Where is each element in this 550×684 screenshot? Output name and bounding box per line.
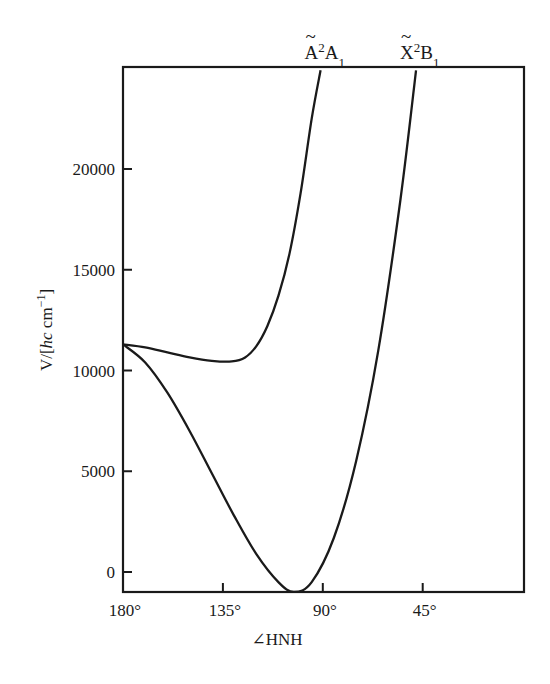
curves	[123, 70, 416, 592]
y-tick-label: 10000	[73, 362, 116, 381]
y-tick-label: 20000	[73, 160, 116, 179]
tilde-mark: ~	[401, 26, 411, 47]
curve-a2a1	[123, 70, 321, 361]
y-axis-title: V/[hc cm−1]	[34, 289, 56, 371]
chart: 05000100001500020000 180°135°90°45° A2A1…	[0, 0, 550, 684]
y-tick-label: 15000	[73, 261, 116, 280]
y-tick-label: 5000	[81, 462, 115, 481]
y-tick-label: 0	[107, 563, 116, 582]
curve-x2b1	[123, 70, 416, 592]
x-axis-ticks: 180°135°90°45°	[109, 583, 437, 620]
x-tick-label: 90°	[313, 601, 337, 620]
x-tick-label: 45°	[413, 601, 437, 620]
state-labels: A2A1~X2B1~	[305, 26, 440, 70]
tilde-mark: ~	[306, 26, 316, 47]
x-tick-label: 180°	[109, 601, 141, 620]
plot-frame	[123, 67, 524, 592]
x-axis-title: ∠HNH	[251, 630, 302, 649]
x-tick-label: 135°	[209, 601, 241, 620]
